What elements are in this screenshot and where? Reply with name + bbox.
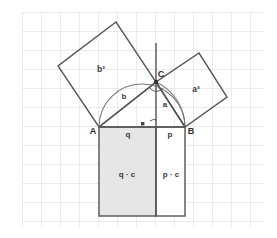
label-segment-p: p bbox=[168, 130, 173, 139]
geometry-figure: b² a² b a q p q · c p · c A B C bbox=[0, 0, 277, 238]
label-square-a: a² bbox=[192, 84, 200, 94]
label-point-C: C bbox=[158, 69, 165, 79]
right-angle-square-at-foot bbox=[141, 122, 144, 125]
label-square-b: b² bbox=[97, 64, 105, 74]
label-side-b: b bbox=[122, 92, 127, 101]
label-point-B: B bbox=[188, 126, 195, 136]
label-rect-qc: q · c bbox=[119, 170, 136, 179]
geometry-canvas: b² a² b a q p q · c p · c A B C bbox=[0, 0, 277, 238]
label-segment-q: q bbox=[126, 130, 131, 139]
label-rect-pc: p · c bbox=[163, 170, 180, 179]
label-point-A: A bbox=[90, 126, 97, 136]
vertex-dot-C bbox=[154, 80, 158, 84]
label-side-a: a bbox=[163, 100, 168, 109]
